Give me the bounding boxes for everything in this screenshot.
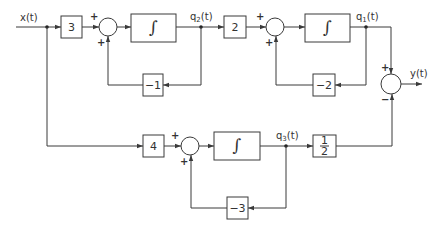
output-sum-minus: −: [381, 94, 389, 105]
feedback2-to-sum2: [276, 36, 313, 85]
gain-3-label: 3: [68, 21, 75, 34]
gain-half-block: 1 2: [313, 134, 336, 158]
summing-junction-3: [181, 137, 199, 155]
gain-2-block: 2: [224, 16, 246, 38]
feedback-gain-minus2-block: −2: [313, 74, 335, 96]
gain-4-label: 4: [150, 140, 157, 153]
feedback1-to-sum1: [108, 36, 143, 85]
gain-half-denominator: 2: [321, 145, 328, 158]
block-diagram: x(t) 3 + + ∫ q2(t) −1 2 + + ∫ q1(t): [0, 0, 442, 232]
q1-label: q1(t): [356, 11, 379, 24]
sum3-plus-bottom: +: [180, 156, 188, 167]
summing-junction-2: [266, 18, 284, 36]
sum2-plus-top: +: [256, 11, 264, 22]
feedback-gain-minus3-label: −3: [229, 202, 245, 215]
integrator-1-symbol: ∫: [149, 17, 158, 37]
sum3-plus-top: +: [171, 130, 179, 141]
gain-4-block: 4: [143, 135, 164, 157]
feedback-gain-minus3-block: −3: [227, 197, 248, 219]
gain-2-label: 2: [232, 21, 239, 34]
feedback3-to-sum3: [191, 155, 227, 208]
gain-3-block: 3: [61, 16, 82, 38]
sum1-plus-top: +: [90, 11, 98, 22]
feedback-gain-minus2-label: −2: [316, 79, 332, 92]
sum1-plus-bottom: +: [97, 37, 105, 48]
input-label: x(t): [20, 12, 38, 23]
integrator-2-block: ∫: [305, 14, 350, 42]
sum2-plus-bottom: +: [265, 37, 273, 48]
output-summing-junction: [381, 74, 401, 94]
q2-label: q2(t): [190, 11, 213, 24]
integrator-2-symbol: ∫: [323, 17, 332, 37]
feedback-gain-minus1-block: −1: [143, 74, 163, 96]
summing-junction-1: [99, 18, 117, 36]
integrator-1-block: ∫: [131, 14, 176, 42]
feedback-gain-minus1-label: −1: [145, 79, 161, 92]
output-label: y(t): [410, 68, 428, 79]
integrator-3-symbol: ∫: [233, 135, 242, 155]
integrator-3-block: ∫: [214, 132, 260, 160]
branch-to-gain-4: [47, 27, 143, 146]
output-sum-plus: +: [381, 62, 389, 73]
q3-label: q3(t): [276, 130, 299, 143]
